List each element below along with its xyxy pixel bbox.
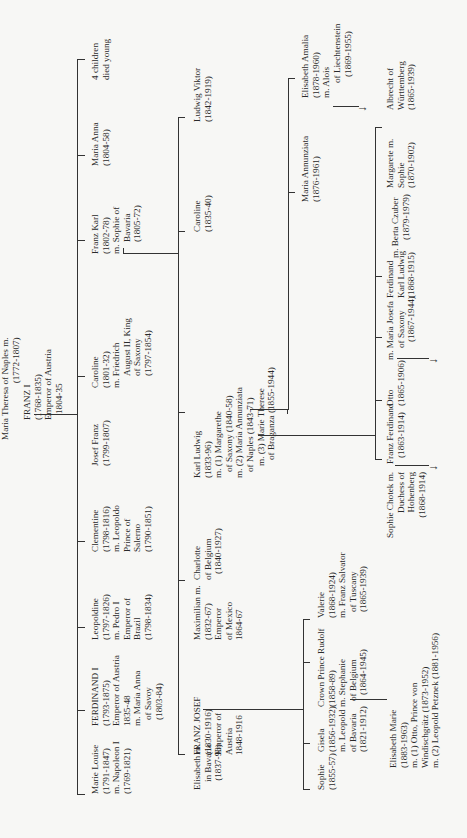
tick [77,794,85,795]
sophie-ff-line [395,465,429,466]
person-berta-czuber: m. Berta Czuber (1879-1979) [390,194,411,258]
person-sophie: Sophie (1855-57) [316,753,337,790]
descendants-arrow-icon: ↓ [427,465,439,471]
person-sophie-chotek: Sophie Chotek m. Duchess of Hohenberg (1… [385,472,427,538]
tick [77,541,85,542]
tick [178,231,185,232]
person-franz-ferdinand: Franz Ferdinand (1863-1914) [385,404,406,464]
gen2-sibling-bar [178,117,179,755]
tick [375,400,382,401]
tick [303,789,310,790]
tick [77,376,85,377]
gen3-kl3-sibling-bar [288,78,289,410]
tick [77,59,85,60]
tick [375,337,382,338]
person-clementine: Clementine (1798-1816) m. Leopoldo Princ… [90,505,154,552]
person-ludwig-viktor: Ludwig Viktor (1842-1919) [192,68,213,122]
person-caroline-1835: Caroline (1835-40) [192,195,213,232]
karl-ludwig-drop-3 [250,409,288,410]
franz-josef-drop [203,709,303,710]
otto-mj-line [397,358,429,359]
person-elisabeth-marie: Elisabeth Marie (1883-1963) m. (1) Otto,… [388,633,441,768]
person-maximilian: Maximilian m. (1832-67) Emperor of Mexic… [192,585,245,640]
four-children-died-young: 4 children died young [90,39,111,80]
franz-karl-drop [123,253,179,254]
tick [178,117,185,118]
tick [77,627,85,628]
person-gisela: Gisela (1856-1932) m. Leopold of Bavaria… [316,706,369,752]
root-drop-line [34,414,78,415]
person-josef-franz: Josef Franz (1799-1807) [90,420,111,466]
tick [77,710,85,711]
person-marie-louise: Marie Louise (1791-1847) m. Napoleon I (… [90,741,132,794]
person-franz-josef: FRANZ JOSEF (1830-1916) Emperor of Austr… [192,697,245,755]
family-tree-diagram: Maria Theresa of Naples m. (1772-1807) F… [0,0,467,838]
person-otto: Otto (1865-1906) [385,360,406,406]
person-margarete-sophie: Margarete m. Sophie (1870-1902) [385,139,417,188]
person-caroline-1801: Caroline (1801-32) m. Friedrich August I… [90,318,154,388]
tick [303,743,310,744]
tick [77,155,85,156]
tick [303,662,310,663]
descendants-arrow-icon: ↓ [427,358,439,364]
descendants-arrow-icon: ↓ [356,106,368,112]
person-leopoldine: Leopoldine (1797-1826) m. Pedro I Empero… [90,594,154,640]
tick [288,192,295,193]
root-wife: Maria Theresa of Naples m. (1772-1807) [0,337,21,440]
person-ferdinand-i: FERDINAND I (1793-1875) Emperor of Austr… [90,655,164,726]
person-albrecht: Albrecht of Württemberg (1865-1939) [385,61,417,110]
person-maria-anna: Maria Anna (1804-58) [90,122,111,166]
karl-ludwig-drop-2 [258,435,375,436]
tick [77,240,85,241]
gen1-sibling-bar [77,59,78,795]
gen3-kl-margarete-bar [375,127,376,277]
gen3-kl-sibling-bar [375,276,376,460]
tick [288,78,295,79]
gen3-fj-sibling-bar [303,619,304,790]
root-husband-franz-i: FRANZ I (1768-1835) Emperor of Austria 1… [22,349,64,420]
tick [178,412,185,413]
person-karl-ludwig: Karl Ludwig (1833-96) m. (1) Margarethe … [192,367,277,478]
person-valerie: Valerie (1868-1924) m. Franz Salvator of… [316,552,369,618]
person-crown-prince-rudolf: Crown Prince Rudolf (1858-89) m. Stephan… [316,628,369,707]
tick [375,127,382,128]
person-alois-liechtenstein: of Liechtenstein (1869-1955) [332,24,353,83]
tick [303,619,310,620]
tick [178,754,185,755]
person-elisabeth-amalia: Elisabeth Amalia (1878-1960) m. Alois [300,35,332,98]
rudolf-drop [350,699,387,700]
person-franz-karl: Franz Karl (1802-78) m. Sophie of Bavari… [90,205,143,254]
person-maria-annunziata: Maria Annunziata (1876-1961) [300,136,321,202]
tick [375,459,382,460]
person-charlotte: Charlotte of Belgium (1840-1927) [192,528,224,580]
person-maria-josefa: m. Maria Josefa of Saxony (1867-1944) [385,296,417,360]
tick [178,580,185,581]
